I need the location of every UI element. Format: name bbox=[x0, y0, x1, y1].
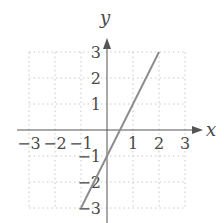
x-axis-arrow-icon bbox=[192, 126, 203, 134]
y-tick-label: 2 bbox=[91, 69, 101, 88]
y-tick-label: 1 bbox=[91, 95, 101, 114]
x-tick-label: 2 bbox=[154, 134, 164, 153]
x-axis-label: x bbox=[206, 119, 216, 140]
y-tick-label: −1 bbox=[77, 147, 101, 166]
y-tick-label: −3 bbox=[77, 199, 101, 218]
x-tick-label: 3 bbox=[180, 134, 190, 153]
y-axis-label: y bbox=[99, 7, 111, 28]
x-tick-label: −2 bbox=[43, 134, 67, 153]
x-tick-label: 1 bbox=[128, 134, 138, 153]
y-axis-arrow-icon bbox=[103, 38, 111, 49]
coordinate-plane: x y −3 −2 −1 1 2 3 3 2 1 −1 −2 −3 bbox=[0, 0, 224, 223]
x-tick-label: −3 bbox=[17, 134, 41, 153]
y-tick-label: 3 bbox=[91, 43, 101, 62]
